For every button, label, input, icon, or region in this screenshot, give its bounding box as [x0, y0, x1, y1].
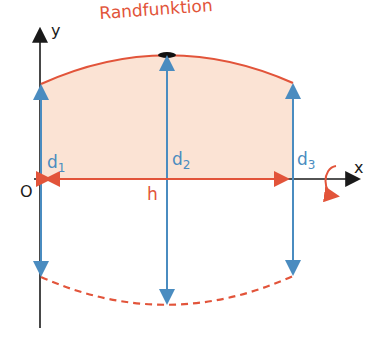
y-axis-label: y: [51, 23, 60, 39]
h-label: h: [147, 186, 158, 203]
peak-marker: [158, 52, 176, 58]
d3-label: d3: [297, 151, 315, 171]
d1-label: d1: [47, 154, 65, 174]
d2-label: d2: [172, 151, 190, 171]
x-axis-label: x: [354, 160, 363, 176]
origin-label: O: [20, 184, 33, 200]
rotation-icon: [326, 166, 337, 196]
